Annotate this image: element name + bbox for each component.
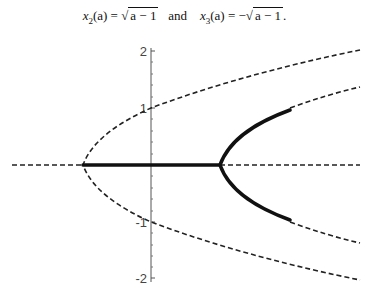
y-tick-label-1: 1 [140,101,147,116]
y-tick-label-neg2: -2 [135,271,147,286]
dashed-inner-upper [290,87,360,108]
dashed-inner-lower [290,222,360,243]
stable-branches [83,110,290,220]
y-tick-label-2: 2 [140,44,147,59]
bifurcation-plot: 2 1 -1 -2 [0,0,369,292]
